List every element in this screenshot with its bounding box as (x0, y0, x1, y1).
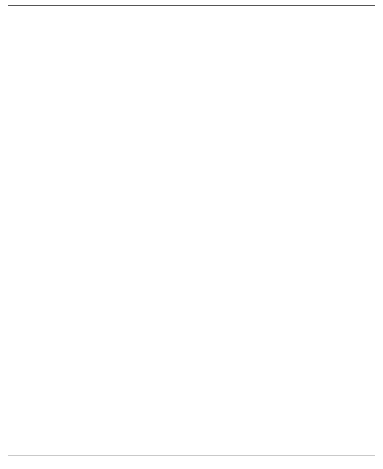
plot-nationwide (0, 12, 383, 240)
plot-gangnam (0, 250, 383, 450)
chart-svg-nationwide (0, 12, 383, 240)
chart-svg-gangnam (0, 250, 383, 450)
figure-root (0, 0, 383, 469)
panel-nationwide (0, 12, 383, 240)
top-divider (8, 5, 375, 6)
bottom-divider (8, 455, 375, 456)
panel-gangnam (0, 250, 383, 450)
